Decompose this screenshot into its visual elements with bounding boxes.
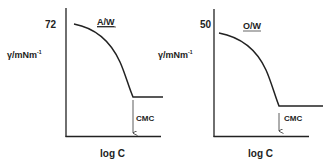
curve-right (219, 33, 323, 106)
title-right: O/W (243, 21, 262, 31)
cmc-label-right: CMC (284, 114, 302, 123)
x-label-right: log C (248, 148, 273, 159)
cmc-label-left: CMC (136, 114, 154, 123)
curve-left (74, 24, 163, 97)
y-label-left: γ/mNm-1 (7, 49, 42, 60)
y-tick-right: 50 (200, 19, 212, 30)
title-left: A/W (97, 17, 115, 27)
chart-right-ow: 50 O/W γ/mNm-1 CMC log C (158, 9, 323, 159)
chart-left-aw: 72 A/W γ/mNm-1 CMC log C (7, 8, 163, 159)
surface-tension-figure: 72 A/W γ/mNm-1 CMC log C 50 O/W γ/mNm-1 … (0, 0, 328, 167)
x-label-left: log C (100, 148, 125, 159)
y-label-right: γ/mNm-1 (158, 49, 193, 60)
y-tick-left: 72 (45, 19, 57, 30)
